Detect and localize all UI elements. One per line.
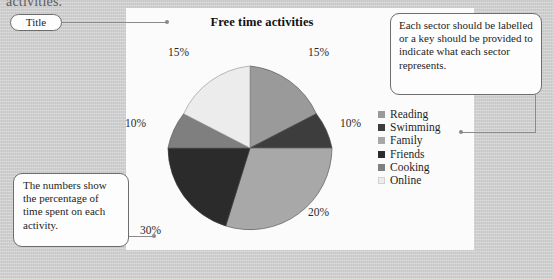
legend-item-cooking[interactable]: Cooking xyxy=(378,161,440,174)
pie-label-reading: 15% xyxy=(308,46,329,58)
legend-item-family[interactable]: Family xyxy=(378,134,440,147)
leader-line-title xyxy=(62,22,167,23)
legend-label-online: Online xyxy=(390,174,421,187)
legend-item-reading[interactable]: Reading xyxy=(378,108,440,121)
chart-legend: Reading Swimming Family Friends Cooking … xyxy=(378,108,440,187)
leader-dot-sector xyxy=(459,130,463,134)
leader-line-sector-vertical xyxy=(535,95,536,133)
legend-swatch-family-icon xyxy=(378,137,385,144)
legend-swatch-cooking-icon xyxy=(378,164,385,171)
pie-label-friends: 30% xyxy=(140,224,161,236)
pie-label-cooking: 10% xyxy=(125,117,146,129)
callout-numbers-note: The numbers show the percentage of time … xyxy=(13,173,129,247)
leader-dot-title xyxy=(165,20,169,24)
callout-title-pill: Title xyxy=(10,14,62,31)
legend-label-cooking: Cooking xyxy=(390,161,430,174)
legend-swatch-friends-icon xyxy=(378,151,385,158)
legend-label-family: Family xyxy=(390,134,423,147)
legend-swatch-online-icon xyxy=(378,177,385,184)
leader-line-sector-horizontal xyxy=(462,132,536,133)
legend-item-online[interactable]: Online xyxy=(378,174,440,187)
legend-swatch-swimming-icon xyxy=(378,124,385,131)
legend-item-swimming[interactable]: Swimming xyxy=(378,121,440,134)
legend-item-friends[interactable]: Friends xyxy=(378,148,440,161)
pie-label-online: 15% xyxy=(168,46,189,58)
pie-label-swimming: 10% xyxy=(340,117,361,129)
leader-line-numbers xyxy=(129,236,154,237)
leader-dot-numbers xyxy=(152,234,156,238)
callout-sector-note: Each sector should be labelled or a key … xyxy=(390,13,542,95)
legend-label-friends: Friends xyxy=(390,148,425,161)
legend-label-swimming: Swimming xyxy=(390,121,440,134)
legend-label-reading: Reading xyxy=(390,108,428,121)
cut-off-body-text: activities. xyxy=(6,0,62,10)
pie-label-family: 20% xyxy=(308,206,329,218)
legend-swatch-reading-icon xyxy=(378,111,385,118)
